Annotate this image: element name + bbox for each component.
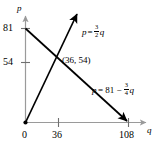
demand-eq-sign: = 81 − — [98, 85, 122, 95]
demand-equation-label: p= 81 −34q — [92, 82, 134, 96]
demand-eq-p: p — [92, 85, 97, 95]
x-tick-label-36: 36 — [52, 130, 62, 140]
demand-line — [26, 29, 128, 122]
intersection-point-label: (36, 54) — [62, 56, 91, 65]
supply-eq-sign: = — [88, 27, 93, 37]
chart-canvas — [0, 0, 157, 150]
demand-eq-variable: q — [129, 85, 134, 95]
y-tick-label-54: 54 — [3, 57, 13, 67]
x-tick-label-0: 0 — [22, 130, 27, 140]
x-axis-label: q — [147, 126, 152, 135]
supply-equation-label: p=32q — [82, 24, 104, 38]
origin-point — [23, 120, 27, 124]
y-axis-label: p — [17, 4, 22, 13]
x-tick-label-108: 108 — [119, 130, 134, 140]
supply-demand-chart: p q 81 54 0 36 108 p=32q p= 81 −34q (36,… — [0, 0, 157, 150]
y-tick-label-81: 81 — [3, 23, 13, 33]
supply-eq-denominator: 2 — [94, 31, 99, 39]
supply-eq-p: p — [82, 27, 87, 37]
supply-eq-numerator: 3 — [94, 24, 99, 31]
supply-eq-fraction: 32 — [94, 24, 99, 38]
supply-eq-variable: q — [100, 27, 105, 37]
